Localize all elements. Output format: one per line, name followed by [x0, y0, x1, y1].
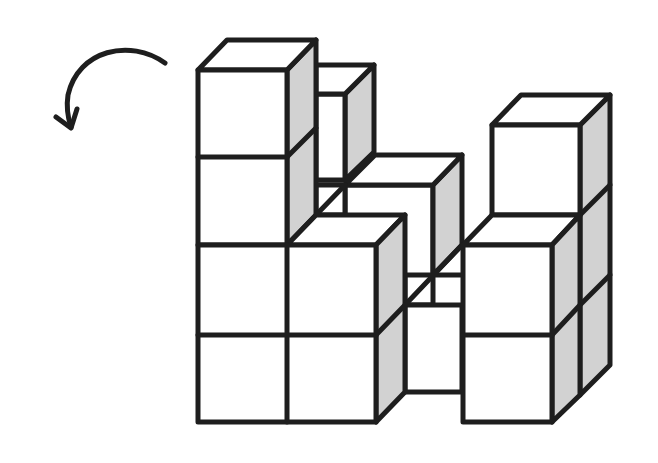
right-tower	[463, 95, 610, 422]
left-tower	[198, 40, 316, 245]
front-block	[198, 215, 405, 422]
cube-stack-diagram	[0, 0, 658, 463]
rotation-arrow-icon	[56, 50, 165, 128]
figure	[0, 0, 658, 463]
